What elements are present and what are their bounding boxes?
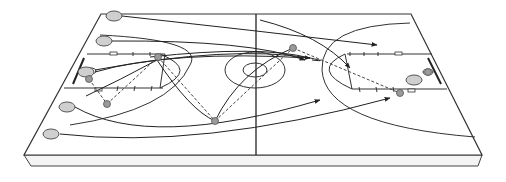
player-2 bbox=[96, 36, 112, 46]
play-diagram bbox=[0, 0, 506, 182]
player-4 bbox=[59, 102, 75, 112]
court-slab bbox=[24, 155, 482, 166]
player-5 bbox=[43, 129, 59, 139]
player-6 bbox=[406, 75, 422, 85]
player-1 bbox=[106, 11, 122, 21]
player-3 bbox=[78, 67, 94, 77]
